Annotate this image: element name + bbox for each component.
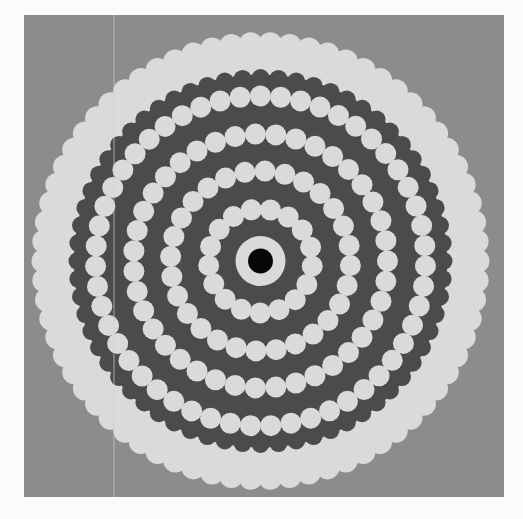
dark-disc-scallop xyxy=(393,368,411,386)
dark-disc-scallop xyxy=(368,111,386,129)
dark-disc-scallop xyxy=(421,182,439,200)
dark-disc-scallop xyxy=(234,70,252,88)
dark-disc-scallop xyxy=(434,270,452,288)
dark-disc-scallop xyxy=(404,354,422,372)
dark-disc-scallop xyxy=(381,123,399,141)
bead xyxy=(163,226,184,247)
dark-disc-scallop xyxy=(269,70,287,88)
dark-disc-scallop xyxy=(305,77,323,95)
bead xyxy=(375,271,396,292)
bead xyxy=(387,159,408,180)
bead xyxy=(250,303,271,324)
dark-disc-scallop xyxy=(198,427,216,445)
bead xyxy=(370,210,391,231)
bead xyxy=(98,315,119,336)
dark-disc-scallop xyxy=(122,123,140,141)
bead xyxy=(274,164,295,185)
bead xyxy=(102,177,123,198)
dark-disc-scallop xyxy=(353,100,371,118)
bead xyxy=(123,240,144,261)
bead xyxy=(265,124,286,145)
bead xyxy=(200,408,221,429)
bead xyxy=(300,408,321,429)
bead xyxy=(285,333,306,354)
bead xyxy=(340,255,361,276)
bead xyxy=(205,132,226,153)
bead xyxy=(265,377,286,398)
bead xyxy=(133,300,154,321)
dark-disc-scallop xyxy=(269,434,287,452)
dark-disc-scallop xyxy=(431,288,449,306)
dark-disc-scallop xyxy=(76,199,94,217)
bead xyxy=(241,199,262,220)
bead xyxy=(94,196,115,217)
dark-disc-scallop xyxy=(431,216,449,234)
bead xyxy=(255,161,276,182)
dark-disc-scallop xyxy=(72,216,90,234)
dark-disc-scallop xyxy=(252,69,270,87)
dark-disc-scallop xyxy=(421,322,439,340)
dark-disc-scallop xyxy=(413,338,431,356)
bead xyxy=(302,256,323,277)
bead xyxy=(234,162,255,183)
dark-disc-scallop xyxy=(69,252,87,270)
bead xyxy=(172,105,193,126)
dark-disc-scallop xyxy=(110,368,128,386)
dark-disc-scallop xyxy=(216,431,234,449)
bead xyxy=(143,318,164,339)
bead xyxy=(127,220,148,241)
dark-disc-scallop xyxy=(99,354,117,372)
bead xyxy=(323,198,344,219)
bead xyxy=(91,296,112,317)
bead xyxy=(107,333,128,354)
bead xyxy=(127,281,148,302)
bead xyxy=(319,400,340,421)
dark-disc-scallop xyxy=(90,338,108,356)
bead xyxy=(337,275,358,296)
dark-disc-scallop xyxy=(82,182,100,200)
bead xyxy=(414,235,435,256)
bead xyxy=(300,237,321,258)
dark-disc-scallop xyxy=(69,234,87,252)
bead xyxy=(339,235,360,256)
bead xyxy=(245,124,266,145)
dark-disc-scallop xyxy=(252,435,270,453)
dark-disc-scallop xyxy=(287,73,305,91)
bead xyxy=(210,91,231,112)
dark-disc-scallop xyxy=(198,77,216,95)
dark-disc-scallop xyxy=(287,431,305,449)
bead xyxy=(398,177,419,198)
bead xyxy=(85,256,106,277)
bead xyxy=(246,340,267,361)
bead xyxy=(362,310,383,331)
dark-disc-scallop xyxy=(338,413,356,431)
dark-disc-scallop xyxy=(427,199,445,217)
bead xyxy=(86,235,107,256)
bead xyxy=(409,296,430,317)
bead xyxy=(223,206,244,227)
bead xyxy=(285,129,306,150)
concentric-bead-rings-figure xyxy=(0,0,523,519)
bead xyxy=(197,177,218,198)
bead xyxy=(268,299,289,320)
bead xyxy=(87,276,108,297)
dark-disc-scallop xyxy=(216,73,234,91)
bead xyxy=(187,141,208,162)
bead xyxy=(375,230,396,251)
bead xyxy=(411,215,432,236)
bead xyxy=(322,355,343,376)
bead xyxy=(181,400,202,421)
bead xyxy=(177,303,198,324)
bead xyxy=(280,413,301,434)
dark-disc-scallop xyxy=(72,288,90,306)
bead xyxy=(220,413,241,434)
bead xyxy=(190,97,211,118)
bead xyxy=(240,415,261,436)
bead xyxy=(415,255,436,276)
bead xyxy=(333,216,354,237)
dark-disc-scallop xyxy=(305,427,323,445)
bead xyxy=(304,136,325,157)
bead xyxy=(225,126,246,147)
dark-disc-scallop xyxy=(435,252,453,270)
bead xyxy=(215,168,236,189)
